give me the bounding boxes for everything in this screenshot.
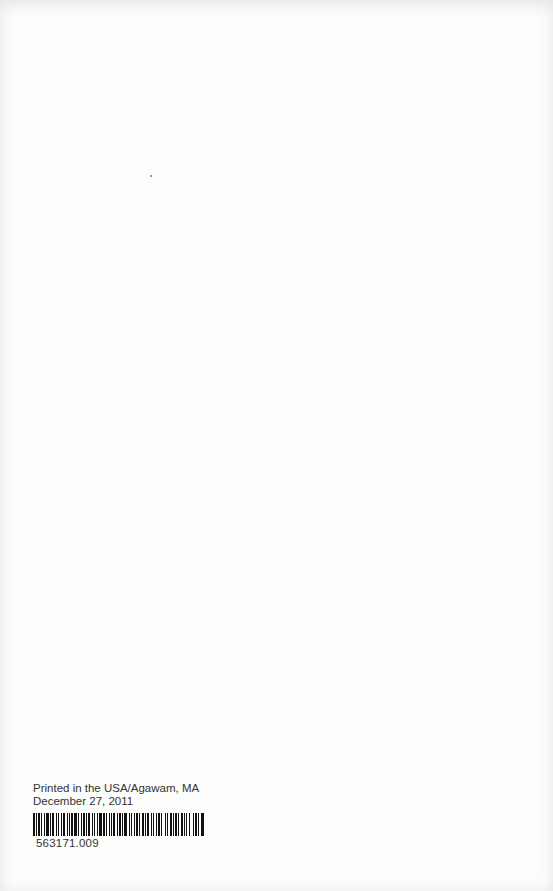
paper-speck [150, 175, 152, 177]
print-date: December 27, 2011 [33, 795, 199, 808]
barcode [33, 813, 204, 836]
page-shadow [0, 0, 553, 891]
print-location: Printed in the USA/Agawam, MA [33, 782, 199, 795]
printer-imprint: Printed in the USA/Agawam, MA December 2… [33, 782, 199, 807]
barcode-number: 563171.009 [36, 837, 99, 849]
